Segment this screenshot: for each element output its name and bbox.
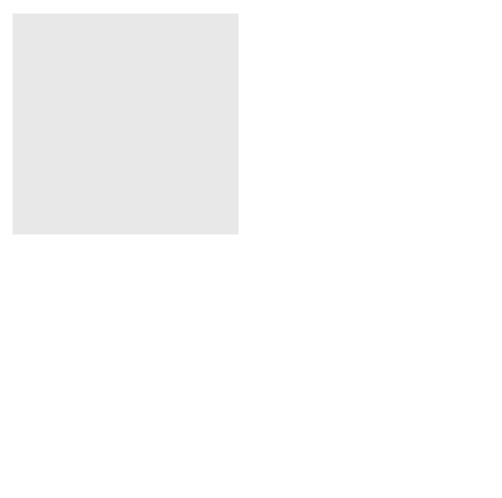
figure-background (13, 14, 239, 235)
surfactant-diagram (0, 0, 502, 498)
